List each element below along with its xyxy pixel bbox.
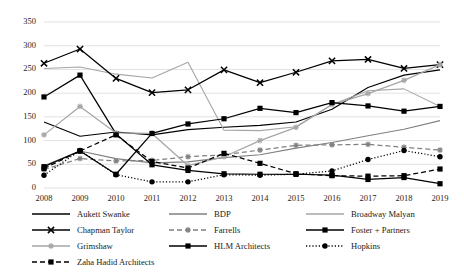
x-axis-tick-2010: 2010 xyxy=(96,193,136,203)
data-point-marker xyxy=(77,104,83,110)
data-point-marker xyxy=(401,148,406,153)
data-point-marker xyxy=(257,138,263,144)
data-point-marker xyxy=(185,179,190,184)
x-axis-tick-2009: 2009 xyxy=(60,193,100,203)
data-point-marker xyxy=(401,173,406,178)
y-axis-tick-200: 200 xyxy=(10,87,36,97)
legend-row: Aukett SwankeBDPBroadway Malyan xyxy=(28,206,440,222)
legend-swatch-dashed-square xyxy=(28,255,74,269)
series-line xyxy=(44,62,440,130)
legend-item-farrells[interactable]: Farrells xyxy=(165,222,302,238)
data-point-marker xyxy=(365,103,370,108)
legend-label: Hopkins xyxy=(348,241,380,251)
y-axis-tick-100: 100 xyxy=(10,135,36,145)
legend-item-grimshaw[interactable]: Grimshaw xyxy=(28,238,165,254)
data-point-marker xyxy=(149,179,154,184)
data-point-marker xyxy=(293,171,298,176)
legend-marker xyxy=(185,243,190,248)
data-point-marker xyxy=(77,46,83,52)
data-point-marker xyxy=(257,147,263,153)
legend-marker xyxy=(185,227,191,233)
data-point-marker xyxy=(293,124,299,130)
data-point-marker xyxy=(437,147,443,153)
data-point-marker xyxy=(365,157,370,162)
data-point-marker xyxy=(437,154,442,159)
line-chart: 050100150200250300350 200820092010201120… xyxy=(0,0,464,276)
legend-label: Broadway Malyan xyxy=(348,209,415,219)
x-axis-tick-2014: 2014 xyxy=(240,193,280,203)
legend-label: Aukett Swanke xyxy=(74,209,130,219)
series-line xyxy=(44,75,440,184)
legend-label: Farrells xyxy=(211,225,240,235)
legend-item-bdp[interactable]: BDP xyxy=(165,206,302,222)
legend-label: HLM Architects xyxy=(211,241,270,251)
data-point-marker xyxy=(149,131,154,136)
legend-label: Zaha Hadid Architects xyxy=(74,257,154,267)
y-axis-tick-0: 0 xyxy=(10,182,36,192)
data-point-marker xyxy=(77,156,83,162)
legend-label: Grimshaw xyxy=(74,241,113,251)
legend-marker xyxy=(48,243,54,249)
legend-row: Zaha Hadid Architects xyxy=(28,254,440,270)
x-axis-tick-2015: 2015 xyxy=(276,193,316,203)
data-point-marker xyxy=(185,165,190,170)
series-line xyxy=(44,49,440,93)
data-point-marker xyxy=(437,62,443,68)
legend-label: Chapman Taylor xyxy=(74,225,134,235)
legend-swatch-solid-square xyxy=(165,239,211,253)
data-point-marker xyxy=(257,161,262,166)
legend-row: GrimshawHLM ArchitectsHopkins xyxy=(28,238,440,254)
legend-item-foster-partners[interactable]: Foster + Partners xyxy=(302,222,440,238)
data-point-marker xyxy=(221,116,226,121)
x-axis-tick-2019: 2019 xyxy=(420,193,460,203)
x-axis-tick-2012: 2012 xyxy=(168,193,208,203)
data-point-marker xyxy=(221,172,226,177)
data-point-marker xyxy=(77,148,82,153)
legend-item-hlm-architects[interactable]: HLM Architects xyxy=(165,238,302,254)
data-point-marker xyxy=(437,166,442,171)
data-point-marker xyxy=(365,174,370,179)
data-point-marker xyxy=(257,106,262,111)
series-line xyxy=(44,70,440,136)
legend-swatch-solid-star xyxy=(28,239,74,253)
data-point-marker xyxy=(437,104,442,109)
data-point-marker xyxy=(329,168,334,173)
data-point-marker xyxy=(329,142,335,148)
legend-item-chapman-taylor[interactable]: Chapman Taylor xyxy=(28,222,165,238)
data-point-marker xyxy=(401,109,406,114)
data-point-marker xyxy=(149,159,154,164)
legend-swatch-dotted-circle xyxy=(302,239,348,253)
data-point-marker xyxy=(293,142,299,148)
legend-swatch-solid-none xyxy=(165,207,211,221)
x-axis-tick-2018: 2018 xyxy=(384,193,424,203)
legend-swatch-solid-none xyxy=(302,207,348,221)
legend-swatch-solid-square xyxy=(302,223,348,237)
data-point-marker xyxy=(401,77,407,83)
series-line xyxy=(44,65,440,166)
legend-item-hopkins[interactable]: Hopkins xyxy=(302,238,440,254)
y-axis-tick-300: 300 xyxy=(10,40,36,50)
legend-marker xyxy=(322,227,327,232)
data-point-marker xyxy=(185,154,191,160)
legend-marker xyxy=(322,243,327,248)
y-axis-tick-250: 250 xyxy=(10,63,36,73)
data-point-marker xyxy=(41,132,47,138)
legend-marker xyxy=(48,259,53,264)
y-axis-tick-150: 150 xyxy=(10,111,36,121)
legend-swatch-solid-x xyxy=(28,223,74,237)
legend-swatch-solid-none xyxy=(28,207,74,221)
chart-legend: Aukett SwankeBDPBroadway MalyanChapman T… xyxy=(28,206,440,272)
data-point-marker xyxy=(257,172,262,177)
data-point-marker xyxy=(437,181,442,186)
data-point-marker xyxy=(329,100,334,105)
data-point-marker xyxy=(221,151,226,156)
legend-item-zaha-hadid-architects[interactable]: Zaha Hadid Architects xyxy=(28,254,165,270)
data-point-marker xyxy=(41,172,46,177)
data-point-marker xyxy=(41,60,47,66)
data-point-marker xyxy=(113,75,119,81)
legend-swatch-dashed-star xyxy=(165,223,211,237)
data-point-marker xyxy=(113,132,118,137)
legend-item-aukett-swanke[interactable]: Aukett Swanke xyxy=(28,206,165,222)
legend-item-broadway-malyan[interactable]: Broadway Malyan xyxy=(302,206,440,222)
series-farrells xyxy=(41,141,443,172)
